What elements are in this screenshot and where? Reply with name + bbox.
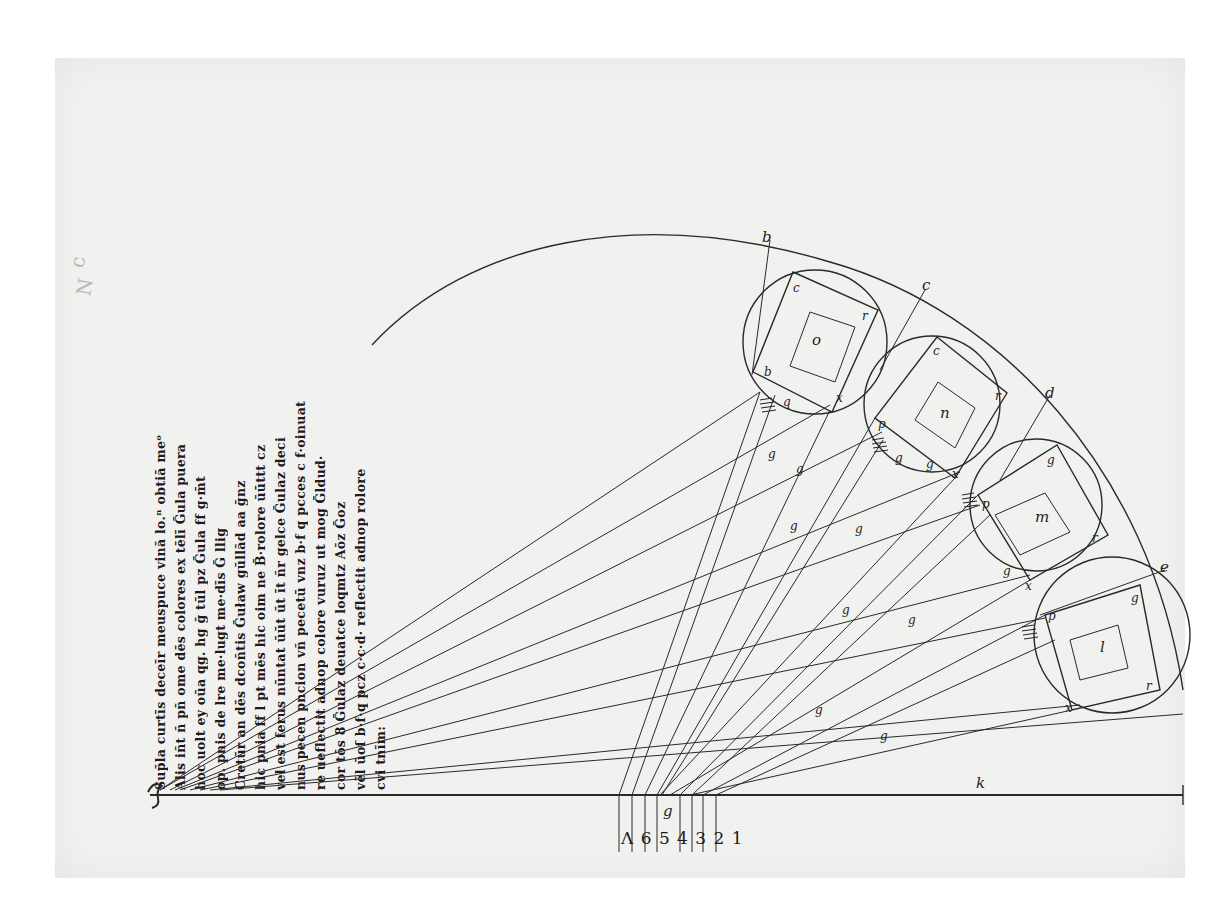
- label-m-r: r: [1092, 531, 1099, 545]
- label-n: n: [940, 404, 950, 422]
- label-o: o: [812, 331, 821, 349]
- scale-numbers: Λ 6 5 4 3 2 1: [621, 828, 744, 848]
- ray-label: g: [1003, 564, 1011, 578]
- label-g-center: g: [663, 802, 673, 820]
- label-c: c: [922, 276, 931, 294]
- label-o-q: q: [783, 395, 791, 409]
- ray-label: g: [926, 457, 934, 471]
- label-o-x: x: [836, 391, 843, 405]
- label-e: e: [1160, 558, 1169, 576]
- outer-arc: [372, 235, 1183, 690]
- label-d: d: [1045, 384, 1055, 402]
- label-n-c: c: [933, 344, 940, 358]
- label-k: k: [976, 774, 985, 792]
- ray-label: g: [790, 519, 798, 533]
- tangent-e: [1040, 570, 1165, 615]
- ray-label: g: [815, 703, 823, 717]
- label-n-r: r: [995, 389, 1002, 403]
- label-m: m: [1035, 508, 1049, 526]
- label-n-x: x: [952, 467, 959, 481]
- inner-rect-o: [790, 312, 855, 382]
- inner-rect-l: [1070, 625, 1128, 680]
- ray-label: g: [842, 603, 850, 617]
- tangent-d: [1000, 395, 1050, 480]
- tangent-c: [880, 290, 925, 370]
- circle-l-group: [1034, 557, 1190, 713]
- label-l: l: [1100, 638, 1105, 656]
- label-o-r: r: [862, 309, 869, 323]
- label-m-g: g: [1047, 453, 1055, 467]
- circle-m-group: [970, 395, 1108, 580]
- tangent-b: [752, 240, 770, 375]
- inner-rect-m: [995, 493, 1070, 555]
- label-n-g: g: [895, 451, 903, 465]
- ray-label: g: [880, 729, 888, 743]
- label-o-b: b: [764, 365, 772, 379]
- rays-to-scale: [619, 392, 1072, 795]
- optics-diagram: o n m l c r x q b c r x g p g r x p g r …: [0, 0, 1229, 917]
- hatch-marks: [760, 398, 1038, 639]
- ray-label: g: [908, 613, 916, 627]
- label-l-g: g: [1131, 591, 1139, 605]
- ray-label: g: [768, 447, 776, 461]
- circle-l: [1034, 557, 1190, 713]
- label-l-p: p: [1048, 609, 1056, 623]
- label-l-r: r: [1146, 679, 1153, 693]
- label-m-p: p: [982, 497, 990, 511]
- circle-n: [864, 336, 1000, 472]
- label-l-x: x: [1065, 701, 1072, 715]
- label-o-c: c: [793, 281, 800, 295]
- label-n-p: p: [878, 417, 886, 431]
- ray-label: g: [796, 462, 804, 476]
- label-b: b: [762, 228, 772, 246]
- ray-label: g: [855, 522, 863, 536]
- label-m-x: x: [1025, 579, 1032, 593]
